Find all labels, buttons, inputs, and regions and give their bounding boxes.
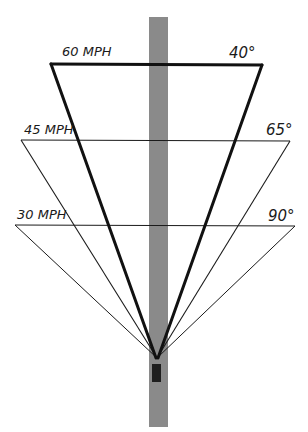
angle-label-40: 40°: [229, 44, 256, 62]
vision-cone-diagram: 60 MPH 40° 45 MPH 65° 30 MPH 90°: [0, 0, 308, 432]
speed-label-45: 45 MPH: [24, 122, 74, 137]
speed-label-60: 60 MPH: [62, 44, 112, 59]
speed-label-30: 30 MPH: [17, 207, 67, 222]
angle-label-90: 90°: [268, 207, 295, 225]
car: [152, 364, 161, 382]
angle-label-65: 65°: [266, 121, 293, 139]
